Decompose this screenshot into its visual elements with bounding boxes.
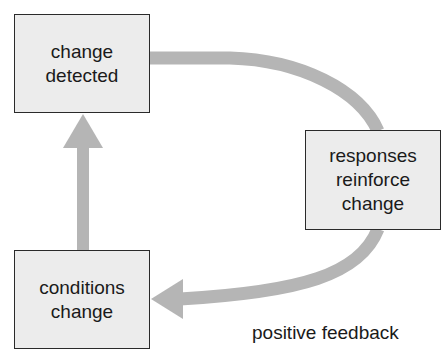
arrowhead-up-icon — [63, 114, 103, 148]
node-label-line: conditions — [39, 276, 125, 300]
node-label-line: change — [329, 192, 417, 216]
edge-responses-to-conditions — [180, 229, 378, 299]
node-label-line: change — [46, 40, 119, 64]
edge-detected-to-responses — [150, 58, 378, 131]
edge-conditions-to-detected — [77, 146, 89, 251]
arrowhead-left-icon — [151, 279, 183, 319]
diagram-caption: positive feedback — [252, 322, 399, 344]
node-label-line: reinforce — [329, 168, 417, 192]
node-change-detected: change detected — [14, 14, 150, 113]
node-responses-reinforce-change: responses reinforce change — [305, 130, 441, 230]
node-conditions-change: conditions change — [14, 250, 150, 349]
node-label-line: change — [39, 300, 125, 324]
node-label-line: responses — [329, 144, 417, 168]
node-label-line: detected — [46, 64, 119, 88]
